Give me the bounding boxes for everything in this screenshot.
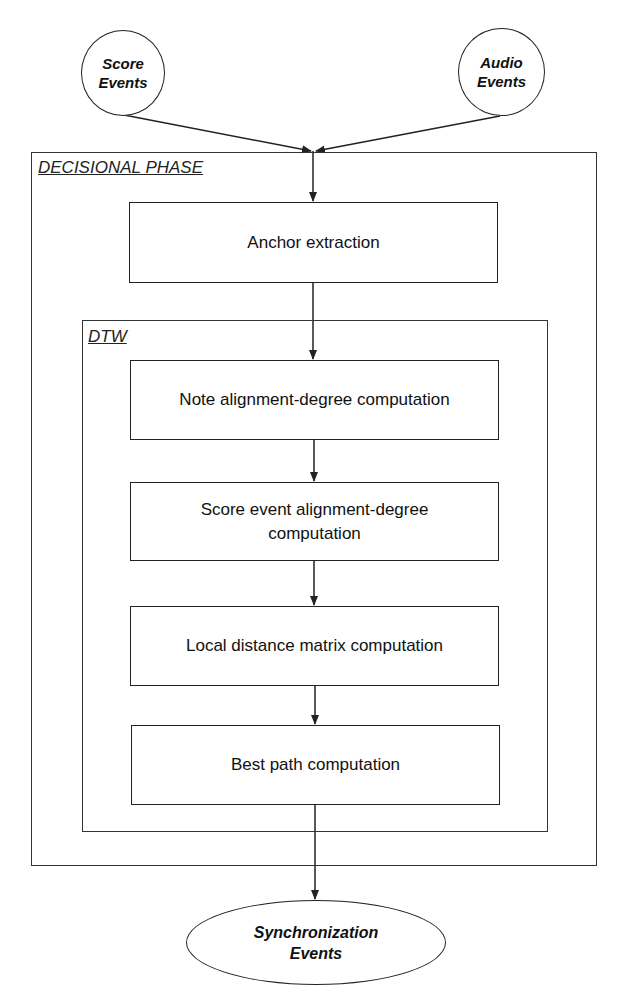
anchor-extraction-label: Anchor extraction: [247, 231, 379, 255]
anchor-extraction-box: Anchor extraction: [129, 202, 498, 283]
audio-events-node: Audio Events: [458, 28, 545, 116]
decisional-phase-label: DECISIONAL PHASE: [38, 158, 203, 178]
synchronization-events-line2: Events: [254, 943, 378, 964]
score-event-alignment-line1: Score event alignment-degree: [201, 498, 429, 522]
score-events-line1: Score: [98, 54, 147, 73]
audio-events-line2: Events: [477, 72, 526, 91]
edge-score-to-merge: [124, 115, 311, 151]
synchronization-events-line1: Synchronization: [254, 922, 378, 943]
local-distance-matrix-box: Local distance matrix computation: [130, 606, 499, 686]
note-alignment-box: Note alignment-degree computation: [130, 360, 499, 440]
edge-audio-to-merge: [316, 116, 500, 151]
best-path-box: Best path computation: [131, 725, 500, 805]
synchronization-events-node: Synchronization Events: [186, 900, 446, 985]
dtw-label: DTW: [88, 327, 127, 347]
best-path-label: Best path computation: [231, 753, 400, 777]
score-event-alignment-box: Score event alignment-degree computation: [130, 482, 499, 561]
score-events-line2: Events: [98, 73, 147, 92]
score-events-node: Score Events: [81, 30, 165, 116]
audio-events-line1: Audio: [477, 53, 526, 72]
score-event-alignment-line2: computation: [201, 522, 429, 546]
note-alignment-label: Note alignment-degree computation: [179, 388, 449, 412]
local-distance-matrix-label: Local distance matrix computation: [186, 634, 443, 658]
